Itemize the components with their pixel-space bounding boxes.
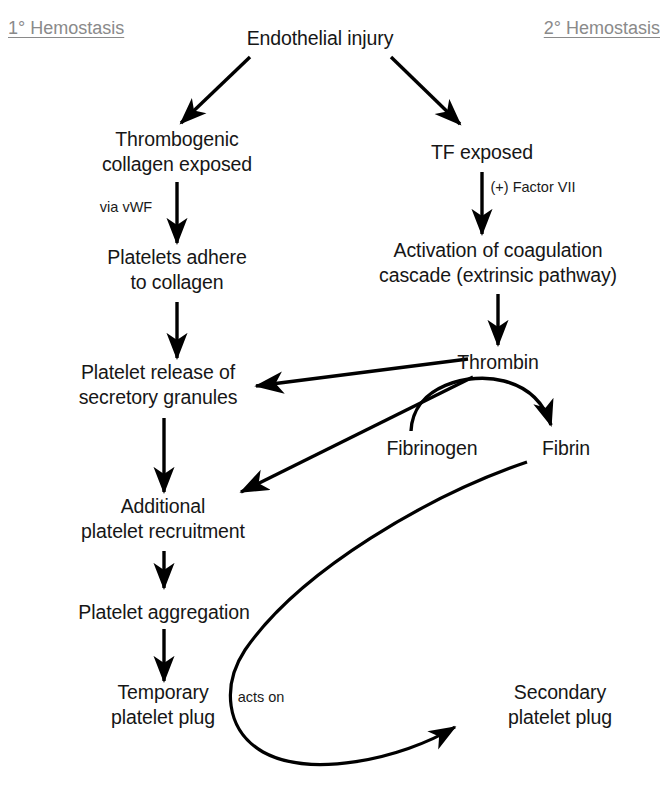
- node-thrombogenic-collagen-exposed: Thrombogenic collagen exposed: [102, 127, 252, 177]
- node-tf-exposed: TF exposed: [431, 140, 533, 165]
- node-additional-platelet-recruitment: Additional platelet recruitment: [81, 494, 245, 544]
- edge-thrombin-to-additional: [241, 377, 473, 492]
- node-platelets-adhere-to-collagen: Platelets adhere to collagen: [107, 245, 246, 295]
- edge-fibrinogen-to-fibrin: [411, 378, 551, 431]
- node-temporary-platelet-plug: Temporary platelet plug: [111, 680, 215, 730]
- edge-label-via-vwf: via vWF: [100, 199, 152, 216]
- edge-injury-to-collagen: [181, 57, 250, 123]
- section-label-primary-hemostasis: 1° Hemostasis: [8, 17, 124, 39]
- node-fibrinogen: Fibrinogen: [386, 436, 477, 461]
- edge-label-acts-on: acts on: [238, 689, 285, 706]
- node-platelet-release-of-secretory-granules: Platelet release of secretory granules: [79, 360, 238, 410]
- edge-label-factor-vii: (+) Factor VII: [490, 179, 575, 196]
- edge-fibrin-to-secondary: [230, 462, 527, 764]
- edge-injury-to-tf: [391, 57, 460, 124]
- edge-thrombin-to-release: [256, 359, 468, 386]
- node-platelet-aggregation: Platelet aggregation: [78, 600, 249, 625]
- node-secondary-platelet-plug: Secondary platelet plug: [508, 680, 612, 730]
- section-label-secondary-hemostasis: 2° Hemostasis: [544, 17, 660, 39]
- node-activation-of-coagulation-cascade: Activation of coagulation cascade (extri…: [379, 238, 617, 288]
- node-fibrin: Fibrin: [542, 436, 590, 461]
- node-thrombin: Thrombin: [457, 350, 539, 375]
- flowchart-canvas: Fibrin : arc --> 1° Hemostasis 2° Hemost…: [0, 0, 668, 792]
- node-endothelial-injury: Endothelial injury: [247, 26, 394, 51]
